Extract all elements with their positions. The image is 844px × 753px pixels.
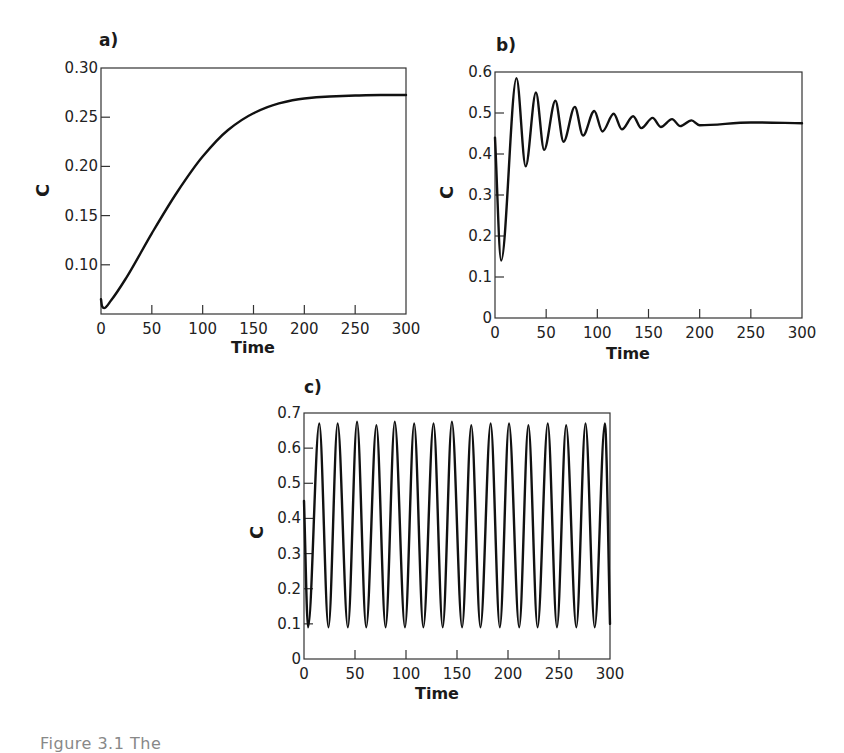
x-tick-label: 100: [392, 665, 421, 683]
x-tick-label: 150: [443, 665, 472, 683]
y-tick-label: 0.5: [277, 474, 301, 492]
x-tick-label: 50: [345, 665, 364, 683]
y-tick-label: 0.7: [277, 404, 301, 422]
y-tick-label: 0: [291, 650, 301, 668]
x-tick-label: 250: [545, 665, 574, 683]
y-tick-label: 0.1: [277, 615, 301, 633]
y-tick-label: 0.3: [277, 545, 301, 563]
y-tick-label: 0.6: [277, 439, 301, 457]
data-line: [304, 422, 610, 628]
y-tick-label: 0.4: [277, 509, 301, 527]
figure-caption: Figure 3.1 The: [40, 734, 161, 753]
x-tick-label: 200: [494, 665, 523, 683]
y-tick-label: 0.2: [277, 580, 301, 598]
x-tick-label: 300: [596, 665, 625, 683]
